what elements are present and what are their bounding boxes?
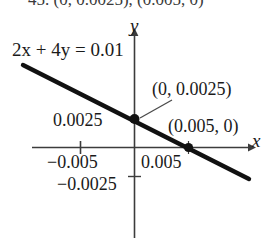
y-tick-label-negative: −0.0025 xyxy=(57,175,117,193)
point-marker-x-intercept xyxy=(184,143,193,152)
x-axis-label: x xyxy=(252,131,260,150)
point-marker-y-intercept xyxy=(130,114,140,124)
equation-annotation: 2x + 4y = 0.01 xyxy=(12,40,124,59)
x-tick-label-positive: 0.005 xyxy=(141,153,182,171)
x-tick-label-negative: −0.005 xyxy=(47,153,98,171)
graph-figure: 45. (0, 0.0025), (0.005, 0) 2x + 4y = 0.… xyxy=(0,0,274,238)
y-axis-label: y xyxy=(130,16,138,35)
y-tick-label-positive: 0.0025 xyxy=(53,111,103,129)
point-label-y-intercept: (0, 0.0025) xyxy=(152,80,232,98)
point-label-x-intercept: (0.005, 0) xyxy=(168,117,239,135)
